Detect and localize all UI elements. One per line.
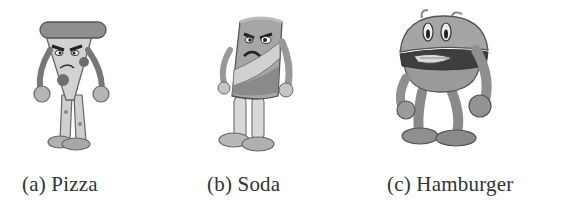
caption-pizza: (a) Pizza [22, 172, 98, 197]
subfigure-soda: (b) Soda [180, 0, 370, 213]
hamburger-character-image [370, 0, 565, 170]
subfigure-hamburger: (c) Hamburger [370, 0, 565, 213]
pizza-character-image [0, 0, 180, 170]
caption-soda: (b) Soda [207, 172, 280, 197]
soda-character-image [180, 0, 370, 170]
subfigure-pizza: (a) Pizza [0, 0, 180, 213]
caption-hamburger: (c) Hamburger [387, 172, 513, 197]
